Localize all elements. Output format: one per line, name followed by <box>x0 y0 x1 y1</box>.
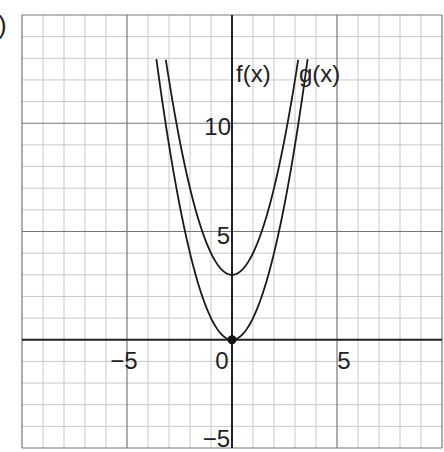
x-tick-label: −5 <box>110 347 137 374</box>
vertex-point <box>228 335 237 344</box>
x-tick-label: 5 <box>337 347 350 374</box>
x-tick-label: 0 <box>215 347 228 374</box>
curve-label: f(x) <box>236 60 271 87</box>
y-tick-label: −5 <box>203 425 230 452</box>
y-tick-label: 10 <box>204 113 231 140</box>
function-graph: −505−5510f(x)g(x) <box>0 0 444 452</box>
y-tick-label: 5 <box>217 222 230 249</box>
curve-label: g(x) <box>299 60 340 87</box>
